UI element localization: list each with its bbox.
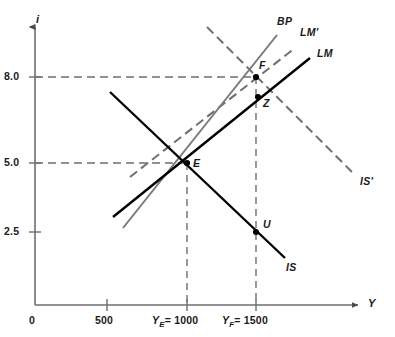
curve-lm <box>113 58 310 217</box>
ye-value: = 1000 <box>165 314 199 326</box>
curve-lm-prime <box>130 48 295 177</box>
yf-value: = 1500 <box>234 314 268 326</box>
point-marker-z <box>255 94 261 100</box>
curve-label-is-prime: IS' <box>360 176 373 187</box>
x-axis-title: Y <box>368 298 375 309</box>
data-points <box>184 74 261 235</box>
x-tick-label-0: 0 <box>29 315 35 326</box>
curve-label-is: IS <box>286 262 297 273</box>
x-tick-label-500: 500 <box>95 315 113 326</box>
curve-bp <box>123 35 277 228</box>
y-tick-label-5: 5.0 <box>4 157 19 168</box>
y-tick-label-8: 8.0 <box>4 71 19 82</box>
point-marker-e <box>184 160 190 166</box>
point-label-z: Z <box>263 98 269 109</box>
curves <box>110 27 355 258</box>
y-axis-title: i <box>36 14 39 25</box>
curve-label-bp: BP <box>277 16 292 27</box>
x-tick-label-ye: YE= 1000 <box>152 315 198 329</box>
y-tick-label-2p5: 2.5 <box>4 226 19 237</box>
x-tick-label-yf: YF= 1500 <box>222 315 268 329</box>
point-marker-u <box>253 229 259 235</box>
is-lm-bp-chart-figure: i Y 8.0 5.0 2.5 0 500 YE= 1000 YF= 1500 … <box>0 0 395 337</box>
curve-is-prime <box>207 27 355 175</box>
point-label-e: E <box>193 158 200 169</box>
curve-label-lm-prime: LM' <box>300 27 319 38</box>
point-label-u: U <box>263 219 271 230</box>
point-label-f: F <box>259 60 265 71</box>
point-marker-f <box>253 74 259 80</box>
curve-label-lm: LM <box>317 48 333 59</box>
